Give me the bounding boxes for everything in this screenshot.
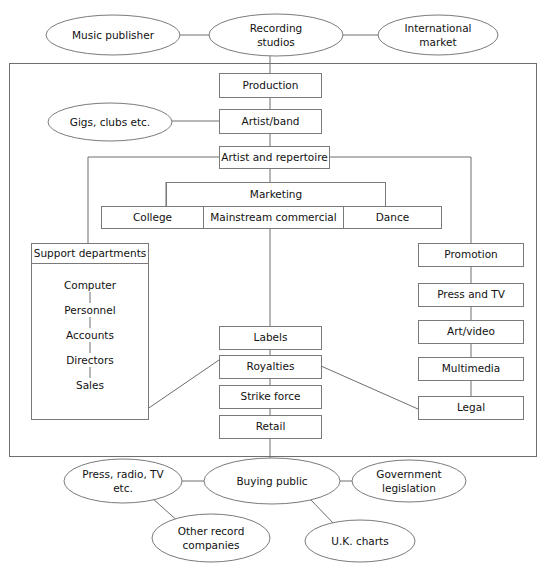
support-item-accounts[interactable]: Accounts: [66, 329, 114, 341]
node-other-record-companies-line1: Other record: [178, 525, 245, 537]
node-college[interactable]: College: [102, 207, 204, 229]
support-item-computer[interactable]: Computer: [64, 279, 117, 291]
node-multimedia[interactable]: Multimedia: [419, 358, 524, 381]
node-gigs-clubs-label: Gigs, clubs etc.: [70, 116, 150, 128]
node-royalties-label: Royalties: [247, 360, 295, 372]
node-production[interactable]: Production: [220, 74, 322, 98]
node-press-and-tv[interactable]: Press and TV: [419, 284, 524, 307]
node-music-publisher[interactable]: Music publisher: [46, 15, 180, 55]
node-music-publisher-label: Music publisher: [72, 29, 155, 41]
support-departments-header-label: Support departments: [34, 247, 146, 259]
external-top-group: Music publisher Recording studios Intern…: [46, 14, 498, 56]
node-production-label: Production: [243, 79, 299, 91]
node-international-market-line2: market: [419, 36, 456, 48]
node-press-radio-tv[interactable]: Press, radio, TV etc.: [64, 459, 182, 503]
diagram-canvas: Production Artist/band Artist and repert…: [0, 0, 549, 569]
node-government-legislation-line1: Government: [376, 468, 441, 480]
node-royalties[interactable]: Royalties: [220, 356, 322, 379]
node-international-market-line1: International: [404, 22, 471, 34]
node-buying-public[interactable]: Buying public: [204, 458, 340, 504]
support-item-directors[interactable]: Directors: [66, 354, 114, 366]
connector-royalties-to-legal: [321, 366, 418, 409]
node-college-label: College: [133, 211, 172, 223]
node-other-record-companies-line2: companies: [182, 539, 239, 551]
node-mainstream-commercial[interactable]: Mainstream commercial: [204, 207, 344, 229]
node-dance[interactable]: Dance: [344, 207, 442, 229]
node-recording-studios[interactable]: Recording studios: [209, 14, 343, 56]
node-uk-charts[interactable]: U.K. charts: [305, 520, 415, 562]
node-buying-public-label: Buying public: [236, 475, 307, 487]
node-legal[interactable]: Legal: [419, 397, 524, 420]
node-art-video[interactable]: Art/video: [419, 321, 524, 344]
support-departments-header[interactable]: Support departments: [32, 244, 149, 264]
node-dance-label: Dance: [376, 211, 409, 223]
node-retail[interactable]: Retail: [220, 416, 322, 439]
main-chain: Production Artist/band Artist and repert…: [220, 74, 330, 169]
node-multimedia-label: Multimedia: [442, 362, 500, 374]
node-promotion[interactable]: Promotion: [419, 244, 524, 267]
node-other-record-companies[interactable]: Other record companies: [152, 514, 270, 562]
support-departments-group: Support departments Computer Personnel A…: [32, 244, 149, 420]
node-gigs-clubs[interactable]: Gigs, clubs etc.: [48, 103, 172, 141]
node-artist-band-label: Artist/band: [241, 115, 299, 127]
node-press-radio-tv-line2: etc.: [113, 482, 133, 494]
node-government-legislation-line2: legislation: [382, 482, 436, 494]
record-company-structure-diagram: Production Artist/band Artist and repert…: [0, 0, 549, 569]
node-promotion-label: Promotion: [444, 248, 497, 260]
node-legal-label: Legal: [457, 401, 485, 413]
node-artist-band[interactable]: Artist/band: [220, 110, 322, 134]
node-artist-and-repertoire[interactable]: Artist and repertoire: [220, 147, 330, 169]
node-recording-studios-line1: Recording: [250, 22, 303, 34]
node-strike-force-label: Strike force: [241, 390, 301, 402]
node-marketing-label: Marketing: [250, 188, 302, 200]
node-strike-force[interactable]: Strike force: [220, 386, 322, 409]
node-uk-charts-label: U.K. charts: [331, 535, 388, 547]
node-labels[interactable]: Labels: [220, 327, 322, 350]
node-art-video-label: Art/video: [447, 325, 495, 337]
support-item-personnel[interactable]: Personnel: [64, 304, 115, 316]
connector-royalties-to-support-departments: [140, 360, 219, 414]
node-international-market[interactable]: International market: [378, 15, 498, 55]
marketing-group: Marketing College Mainstream commercial …: [102, 183, 442, 229]
support-item-sales[interactable]: Sales: [76, 379, 104, 391]
node-recording-studios-line2: studios: [257, 36, 295, 48]
external-bottom-group: Press, radio, TV etc. Buying public Gove…: [64, 458, 466, 562]
node-press-radio-tv-line1: Press, radio, TV: [82, 468, 164, 480]
node-government-legislation[interactable]: Government legislation: [352, 460, 466, 502]
node-press-and-tv-label: Press and TV: [437, 288, 505, 300]
node-retail-label: Retail: [256, 420, 286, 432]
node-labels-label: Labels: [254, 331, 288, 343]
node-mainstream-commercial-label: Mainstream commercial: [210, 211, 336, 223]
node-artist-and-repertoire-label: Artist and repertoire: [221, 151, 328, 163]
node-marketing[interactable]: Marketing: [167, 183, 386, 207]
